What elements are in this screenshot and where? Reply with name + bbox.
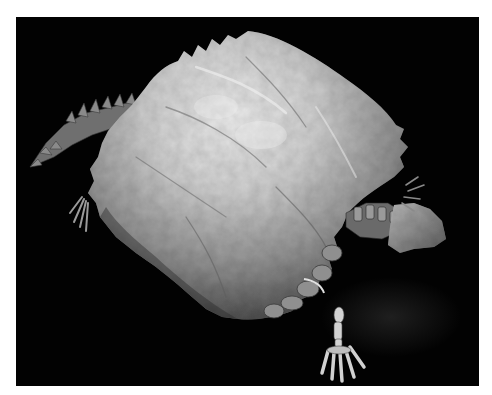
fossil-turtle-illustration	[16, 17, 479, 386]
fossil-photo	[16, 17, 479, 386]
carapace	[88, 31, 408, 320]
head-rock	[388, 203, 446, 253]
left-hind-foot	[70, 197, 88, 231]
